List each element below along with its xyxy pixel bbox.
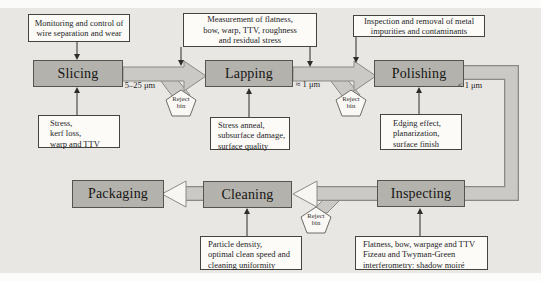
connector-measurement-left-arrowhead bbox=[178, 60, 184, 66]
figure-page: Slicing Lapping Polishing Packaging Clea… bbox=[0, 0, 541, 281]
annotation-line: Fizeau and Twyman-Green bbox=[363, 249, 487, 259]
annotation-line: surface quality bbox=[218, 141, 289, 151]
annotation-line: Measurement of flatness, bbox=[207, 14, 293, 24]
annotation-line: and residual stress bbox=[219, 35, 281, 45]
reject-bin-text: Reject bbox=[333, 95, 369, 102]
flow-label-lapping-to-polishing: ≈ 1 μm bbox=[291, 79, 325, 89]
process-label-cleaning: Cleaning bbox=[221, 187, 273, 203]
connector-cleaning-issues-arrowhead bbox=[244, 208, 250, 214]
annotation-line: subsurface damage, bbox=[218, 130, 289, 140]
annotation-line: Monitoring and control of bbox=[35, 18, 124, 28]
annotation-polishing-issues: Edging effect, planarization, surface fi… bbox=[380, 114, 462, 150]
connector-slicing-issues-arrowhead bbox=[74, 87, 80, 93]
flow-band-polishing-to-inspecting-outline bbox=[463, 73, 512, 194]
reject-bin-2-label: Reject bin bbox=[333, 95, 369, 110]
process-label-packaging: Packaging bbox=[88, 186, 148, 202]
connector-measurement-right-arrowhead bbox=[307, 61, 313, 67]
annotation-inspection-removal: Inspection and removal of metal impuriti… bbox=[353, 15, 485, 37]
process-box-slicing: Slicing bbox=[33, 60, 123, 87]
reject-bin-1-label: Reject bin bbox=[163, 95, 199, 110]
annotation-slicing-issues: Stress, kerf loss, warp and TTV bbox=[38, 115, 120, 148]
annotation-measurement: Measurement of flatness, bow, warp, TTV,… bbox=[183, 13, 317, 47]
reject-bin-text: bin bbox=[163, 102, 199, 109]
process-label-inspecting: Inspecting bbox=[391, 186, 451, 202]
annotation-line: Stress, bbox=[50, 118, 119, 128]
process-box-inspecting: Inspecting bbox=[377, 180, 465, 207]
annotation-line: Inspection and removal of metal bbox=[364, 16, 474, 26]
process-box-lapping: Lapping bbox=[205, 60, 293, 87]
annotation-cleaning-issues: Particle density, optimal clean speed an… bbox=[200, 236, 302, 270]
process-label-lapping: Lapping bbox=[225, 66, 273, 82]
flow-label-slicing-to-lapping: 5–25 μm bbox=[121, 80, 159, 90]
annotation-line: Flatness, bow, warpage and TTV bbox=[363, 239, 487, 249]
process-box-polishing: Polishing bbox=[374, 60, 464, 87]
reject-bin-text: Reject bbox=[163, 95, 199, 102]
annotation-line: Particle density, bbox=[208, 239, 301, 249]
annotation-line: interferometry: shadow moiré bbox=[363, 260, 487, 270]
annotation-inspecting-methods: Flatness, bow, warpage and TTV Fizeau an… bbox=[355, 236, 488, 270]
reject-bin-text: Reject bbox=[298, 212, 334, 219]
annotation-line: Stress anneal, bbox=[218, 120, 289, 130]
open-arrowhead-into-cleaning bbox=[293, 181, 317, 207]
annotation-lapping-issues: Stress anneal, subsurface damage, surfac… bbox=[210, 117, 290, 150]
annotation-line: surface finish bbox=[393, 139, 461, 149]
process-label-polishing: Polishing bbox=[392, 66, 447, 82]
connector-lapping-issues-arrowhead bbox=[246, 88, 252, 94]
annotation-line: impurities and contaminants bbox=[371, 26, 467, 36]
reject-bin-text: bin bbox=[298, 219, 334, 226]
annotation-line: optimal clean speed and bbox=[208, 249, 301, 259]
flow-label-polishing-out: < 1 μm bbox=[453, 80, 487, 90]
annotation-line: kerf loss, bbox=[50, 128, 119, 138]
annotation-line: cleaning uniformity bbox=[208, 260, 301, 270]
connector-polishing-issues-arrowhead bbox=[416, 87, 422, 93]
reject-bin-text: bin bbox=[333, 102, 369, 109]
connector-inspecting-methods-arrowhead bbox=[417, 208, 423, 214]
annotation-line: warp and TTV bbox=[50, 139, 119, 149]
annotation-line: wire separation and wear bbox=[36, 28, 121, 38]
reject-bin-3-label: Reject bin bbox=[298, 212, 334, 227]
annotation-monitoring: Monitoring and control of wire separatio… bbox=[28, 14, 130, 42]
process-box-cleaning: Cleaning bbox=[203, 181, 292, 208]
open-arrowhead-into-packaging bbox=[162, 181, 186, 207]
process-box-packaging: Packaging bbox=[72, 180, 164, 208]
annotation-line: planarization, bbox=[393, 128, 461, 138]
annotation-line: bow, warp, TTV, roughness bbox=[203, 25, 297, 35]
process-label-slicing: Slicing bbox=[57, 66, 98, 82]
annotation-line: Edging effect, bbox=[393, 118, 461, 128]
